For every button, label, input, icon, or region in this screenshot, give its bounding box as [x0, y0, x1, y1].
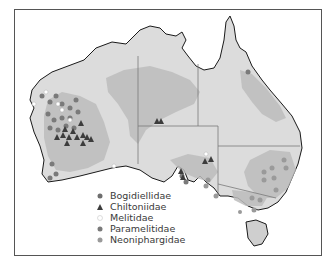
legend: Bogidiellidae Chiltoniidae Melitidae Par… [96, 190, 185, 245]
legend-item-melitidae: Melitidae [96, 212, 185, 223]
legend-label: Bogidiellidae [110, 190, 171, 201]
legend-item-paramelitidae: Paramelitidae [96, 223, 185, 234]
tasmania-landmass [246, 220, 268, 246]
legend-label: Neoniphargidae [110, 234, 185, 245]
legend-item-bogidiellidae: Bogidiellidae [96, 190, 185, 201]
legend-label: Melitidae [110, 212, 153, 223]
legend-item-chiltoniidae: Chiltoniidae [96, 201, 185, 212]
legend-label: Paramelitidae [110, 223, 175, 234]
legend-label: Chiltoniidae [110, 201, 166, 212]
legend-item-neoniphargidae: Neoniphargidae [96, 234, 185, 245]
